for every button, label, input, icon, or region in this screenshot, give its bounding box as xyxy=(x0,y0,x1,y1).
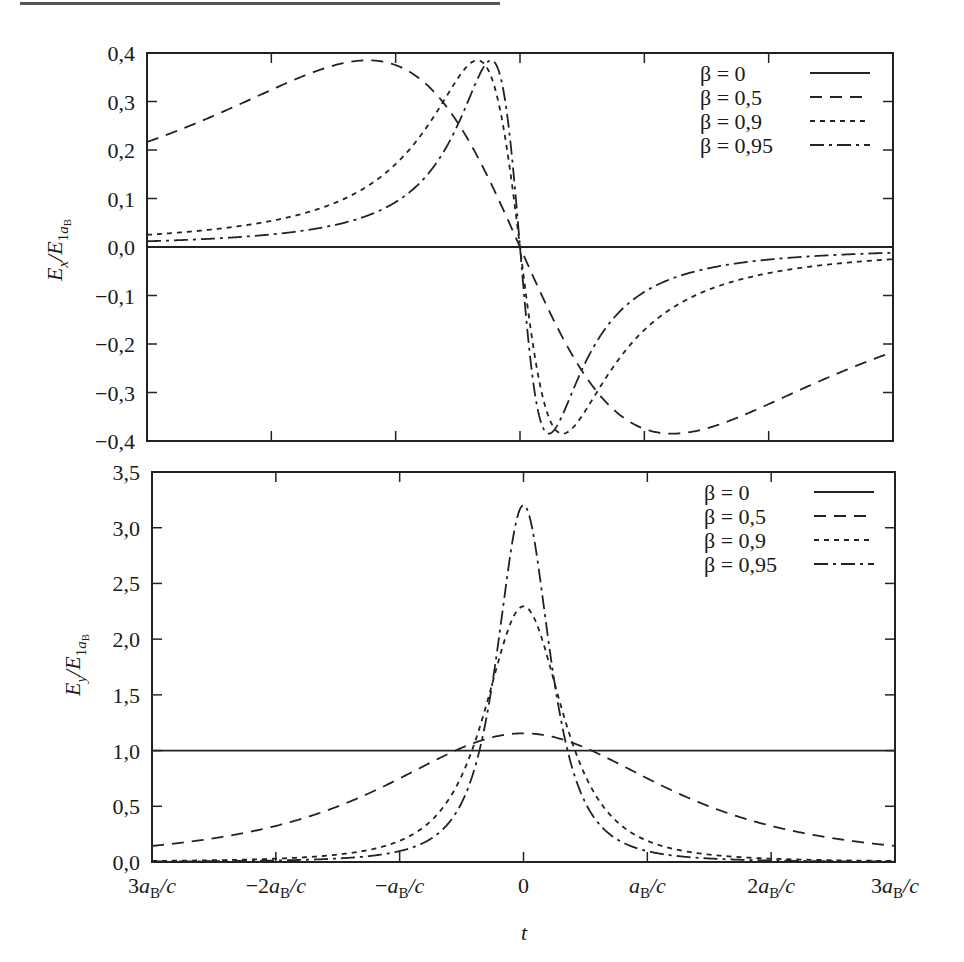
y-tick-label: 2,5 xyxy=(113,571,141,596)
legend-label: β = 0,9 xyxy=(700,109,762,134)
top-curves xyxy=(147,60,893,433)
x-tick-label: −aB/c xyxy=(375,873,425,901)
y-tick-label: −0,3 xyxy=(95,381,135,406)
x-tick-label: 3aB/c xyxy=(128,873,176,901)
y-tick-label: 3,0 xyxy=(113,516,141,541)
y-tick-label: −0,4 xyxy=(95,429,135,454)
legend-label: β = 0 xyxy=(700,61,746,86)
y-tick-label: 0,2 xyxy=(108,138,136,163)
curve-beta-0-95 xyxy=(152,505,895,861)
y-tick-label: 0,0 xyxy=(108,235,136,260)
y-tick-label: 0,0 xyxy=(113,850,141,875)
legend-label: β = 0,95 xyxy=(704,552,777,577)
x-axis-title: t xyxy=(521,920,528,945)
y-tick-label: 3,5 xyxy=(113,460,141,485)
bottom-y-axis-title: Ey/E1aB xyxy=(60,634,91,697)
y-tick-label: −0,1 xyxy=(95,284,135,309)
top-legend: β = 0β = 0,5β = 0,9β = 0,95 xyxy=(700,61,870,158)
top-plot-ex: 0,40,30,20,10,0−0,1−0,2−0,3−0,4 β = 0β =… xyxy=(42,41,893,454)
bottom-y-axis-ticks: 3,53,02,52,01,51,00,50,0 xyxy=(113,460,896,875)
x-tick-label: 3aB/c xyxy=(871,873,919,901)
y-tick-label: 1,5 xyxy=(113,683,141,708)
legend-label: β = 0,5 xyxy=(700,85,762,110)
y-tick-label: 0,4 xyxy=(108,41,136,66)
y-tick-label: 0,5 xyxy=(113,794,141,819)
bottom-x-axis-ticks xyxy=(152,472,895,862)
y-tick-label: −0,2 xyxy=(95,332,135,357)
y-tick-label: 2,0 xyxy=(113,627,141,652)
bottom-curves xyxy=(152,505,895,861)
x-tick-label: 2aB/c xyxy=(747,873,795,901)
x-tick-label: −2aB/c xyxy=(246,873,307,901)
legend-label: β = 0 xyxy=(704,480,750,505)
figure-canvas: 0,40,30,20,10,0−0,1−0,2−0,3−0,4 β = 0β =… xyxy=(0,0,964,962)
x-tick-label: 0 xyxy=(518,873,529,898)
bottom-legend: β = 0β = 0,5β = 0,9β = 0,95 xyxy=(704,480,874,577)
legend-label: β = 0,5 xyxy=(704,504,766,529)
legend-label: β = 0,9 xyxy=(704,528,766,553)
y-tick-label: 1,0 xyxy=(113,739,141,764)
bottom-plot-frame xyxy=(152,472,895,862)
bottom-plot-ey: 3,53,02,52,01,51,00,50,0 β = 0β = 0,5β =… xyxy=(60,460,895,875)
y-tick-label: 0,3 xyxy=(108,90,136,115)
top-y-axis-title: Ex/E1aB xyxy=(42,219,73,282)
y-tick-label: 0,1 xyxy=(108,187,136,212)
x-axis-tick-labels: 3aB/c−2aB/c−aB/c0aB/c2aB/c3aB/c xyxy=(128,873,919,901)
legend-label: β = 0,95 xyxy=(700,133,773,158)
x-tick-label: aB/c xyxy=(629,873,666,901)
